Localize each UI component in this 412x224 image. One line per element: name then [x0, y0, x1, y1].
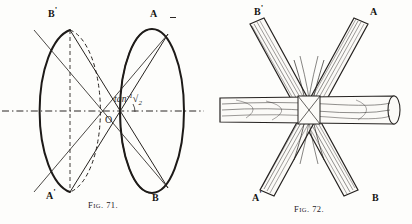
label-point-o: O: [105, 114, 112, 125]
label-a-fig72: A: [370, 6, 377, 17]
label-aprime-fig72: A': [252, 192, 262, 203]
generator-line-lower-left-to-upper-right: [34, 34, 168, 192]
caption-figure-71: FIG. 71.: [0, 200, 206, 210]
angle-annotation-fig71: tan-1√2: [114, 93, 142, 104]
tick-mark-near-a: [170, 17, 176, 18]
generator-line-aprime-to-a: [70, 34, 168, 192]
label-bprime-fig71: B': [48, 8, 57, 19]
label-a-fig71: A: [150, 8, 157, 19]
caption-figure-72: FIG. 72.: [206, 204, 412, 214]
figure-72: B' A A' B FIG. 72.: [206, 0, 412, 224]
generator-line-upper-left-to-lower-right: [34, 30, 168, 188]
generator-line-bprime-to-b: [70, 30, 168, 188]
figure-71-drawing: [0, 0, 206, 210]
label-b-fig72: B: [372, 192, 379, 203]
figure-71: B' A A' B O tan-1√2 FIG. 71.: [0, 0, 206, 224]
label-bprime-fig72: B': [254, 6, 263, 17]
figure-plate: B' A A' B O tan-1√2 FIG. 71.: [0, 0, 412, 224]
figure-72-drawing: [206, 0, 412, 210]
